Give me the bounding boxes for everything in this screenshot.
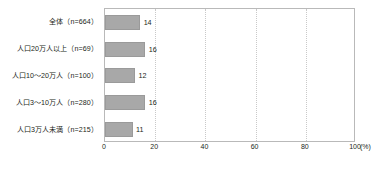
x-tick-label-40: 40 [200,143,208,150]
gridline-20 [155,9,156,141]
bar [105,122,133,137]
bar-row: 11 [105,116,144,143]
bar-value-label: 11 [136,126,143,133]
category-label: 人口20万人以上（n=69） [17,43,100,53]
category-label: 人口3〜10万人（n=280） [16,97,100,107]
bar-row: 16 [105,36,157,63]
bar [105,42,145,57]
category-label: 人口10〜20万人（n=100） [12,70,100,80]
gridline-80 [306,9,307,141]
bar-row: 12 [105,63,147,90]
category-label-row: 人口3万人未満（n=215） [0,115,100,142]
category-label-row: 人口3〜10万人（n=280） [0,88,100,115]
bar [105,68,135,83]
bar-value-label: 12 [139,72,147,79]
bar-value-label: 16 [149,99,157,106]
x-axis: 020406080100 [104,143,355,157]
x-tick-label-20: 20 [150,143,158,150]
bar-value-label: 14 [144,19,152,26]
category-label-row: 全体（n=664） [0,8,100,35]
category-label: 全体（n=664） [49,16,100,26]
bar-row: 16 [105,89,157,116]
category-label: 人口3万人未満（n=215） [17,124,100,134]
x-tick-label-0: 0 [102,143,106,150]
bar [105,95,145,110]
category-label-row: 人口10〜20万人（n=100） [0,62,100,89]
bar-chart: 全体（n=664）人口20万人以上（n=69）人口10〜20万人（n=100）人… [0,0,386,169]
gridline-60 [256,9,257,141]
x-axis-unit-label: (%) [360,143,371,150]
x-tick-label-80: 80 [301,143,309,150]
bar-row: 14 [105,9,152,36]
category-label-row: 人口20万人以上（n=69） [0,35,100,62]
x-tick-label-60: 60 [251,143,259,150]
bar [105,15,140,30]
gridline-40 [205,9,206,141]
category-axis: 全体（n=664）人口20万人以上（n=69）人口10〜20万人（n=100）人… [0,8,100,142]
bar-value-label: 16 [149,46,157,53]
plot-area: 1416121611 [104,8,355,142]
